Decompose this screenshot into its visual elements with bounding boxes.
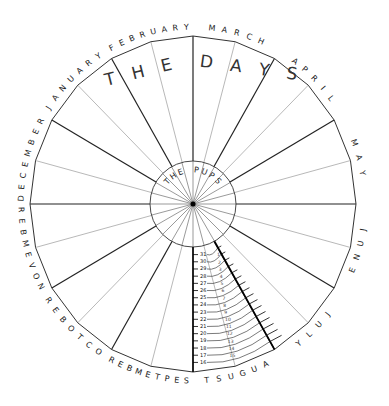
month-letter: U [356,239,366,248]
scale-connector [207,329,264,348]
scale-inner-day-label: 2 [218,260,221,265]
month-letter: A [261,359,271,370]
month-letter: R [84,57,95,68]
month-letter: E [17,218,27,225]
month-label-march: MARCH [208,23,267,47]
month-letter: H [256,36,266,47]
scale-day-label: 23 [200,309,206,315]
month-letter: E [174,375,181,385]
month-letter: E [17,183,27,190]
scale-inner-day-label: 3 [219,267,222,272]
month-letter: C [84,340,95,351]
month-letter: A [354,154,364,163]
scale-inner-day-label: 12 [227,331,233,336]
month-letter: P [164,374,171,384]
scale-day-label: 18 [200,345,206,351]
month-letter: M [20,239,31,249]
scale-inner-day-label: 7 [222,296,225,301]
scale-inner-day-label: 5 [221,281,224,286]
scale-tick [239,282,245,285]
month-letter: L [305,329,315,339]
scale-connector [207,341,271,362]
month-letter: T [203,376,211,386]
month-letter: U [227,371,236,381]
month-letter: E [118,37,127,48]
month-letter: A [161,24,169,34]
scale-inner-day-label: 11 [226,324,232,329]
month-letter: T [153,372,162,382]
month-letter: G [239,368,249,379]
month-letter: B [125,363,135,374]
month-letter: E [23,251,33,260]
scale-day-label: 24 [200,301,206,307]
scale-tick [242,288,249,292]
month-letter: J [323,309,333,318]
scale-inner-day-label: 9 [224,310,227,315]
scale-day-label: 31 [200,251,206,257]
scale-tick [246,294,253,298]
title-word-days: D A Y S [199,51,305,85]
month-letter: C [245,32,254,43]
scale-day-label: 30 [200,258,206,264]
scale-connector [207,335,267,355]
month-letter: N [352,252,363,262]
month-letter: E [50,305,61,315]
month-letter: E [144,370,152,380]
month-letter: E [347,265,358,274]
month-letter: U [149,26,158,36]
month-letter: N [58,82,70,93]
month-letter: D [16,194,25,202]
center-hub [191,202,196,207]
month-letter: B [128,33,137,44]
scale-day-label: 25 [200,294,206,300]
month-letter: S [184,376,191,385]
month-letter: Y [93,50,104,61]
scale-inner-day-label: 13 [228,339,234,344]
month-letter: V [27,261,38,270]
center-letter: P [194,165,201,175]
month-letter: R [172,23,180,33]
scale-tick [225,258,229,260]
days-wheel-diagram: 3113022932842752662572482392210211120121… [0,0,389,406]
scale-tick [249,300,257,304]
scale-tick [271,335,282,341]
scale-tick [235,276,241,279]
scale-tick [260,317,269,322]
month-letter: R [139,29,148,40]
month-letter: C [18,171,28,179]
month-letter: T [74,331,85,342]
scale-inner-day-label: 4 [220,274,223,279]
month-letter: R [233,28,242,38]
month-letter: N [35,282,46,293]
month-letter: O [31,272,42,283]
month-letter: F [108,42,117,53]
month-letter: E [20,160,30,168]
scale-day-label: 27 [200,280,206,286]
month-letter: M [134,367,145,378]
scale-day-label: 19 [200,337,206,343]
month-label-june: JUNE [347,227,368,274]
scale-day-label: 26 [200,287,206,293]
month-label-july: JULY [293,309,332,349]
month-letter: L [326,94,337,104]
month-letter: M [349,138,360,149]
scale-tick [253,306,261,311]
month-letter: E [31,126,42,135]
month-letter: B [58,315,69,326]
scale-inner-day-label: 8 [223,303,226,308]
scale-tick [267,329,277,335]
scale-tick [228,264,233,267]
scale-inner-day-label: 15 [230,353,236,358]
scale-inner-day-label: 6 [222,288,225,293]
month-letter: Y [183,23,190,32]
month-letter: J [358,227,368,233]
month-letter: U [66,73,77,84]
scale-day-label: 21 [200,323,206,329]
month-letter: B [27,137,38,146]
month-letter: A [75,65,86,76]
month-letter: S [216,374,224,384]
scale-inner-day-label: 10 [225,317,231,322]
month-letter: R [107,355,117,366]
month-letter: I [319,84,328,93]
month-letter: M [23,147,34,157]
